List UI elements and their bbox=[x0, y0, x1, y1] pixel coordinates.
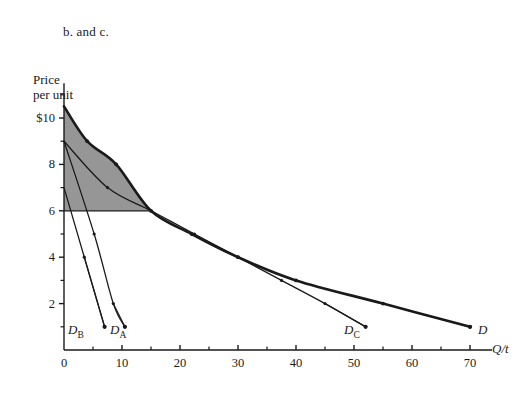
curve-label-d-a: DA bbox=[110, 322, 126, 340]
demand-curve-d bbox=[64, 106, 470, 326]
x-tick-label-10: 10 bbox=[116, 356, 129, 371]
y-tick-label-4: 4 bbox=[49, 250, 55, 265]
y-tick-label-2: 2 bbox=[49, 296, 55, 311]
demand-curves-group bbox=[64, 106, 472, 328]
y-tick-label-6: 6 bbox=[49, 203, 55, 218]
x-axis-title: Q/t bbox=[492, 341, 509, 357]
curve-label-d: D bbox=[478, 322, 487, 338]
x-tick-label-30: 30 bbox=[232, 356, 245, 371]
curve-label-d-c: DC bbox=[344, 322, 360, 340]
label-pointers-group bbox=[84, 257, 472, 329]
curve-label-d-b: DB bbox=[68, 322, 84, 340]
axes-group bbox=[59, 83, 492, 350]
x-tick-label-40: 40 bbox=[290, 356, 303, 371]
x-tick-label-20: 20 bbox=[174, 356, 187, 371]
x-tick-label-50: 50 bbox=[348, 356, 361, 371]
x-tick-label-60: 60 bbox=[406, 356, 419, 371]
demand-curve-figure: b. and c. Price per unit $108642 0102030… bbox=[0, 0, 529, 396]
y-tick-label-8: 8 bbox=[49, 157, 55, 172]
x-tick-label-70: 70 bbox=[464, 356, 477, 371]
y-tick-label-10: $10 bbox=[36, 111, 55, 126]
x-tick-label-0: 0 bbox=[61, 356, 67, 371]
